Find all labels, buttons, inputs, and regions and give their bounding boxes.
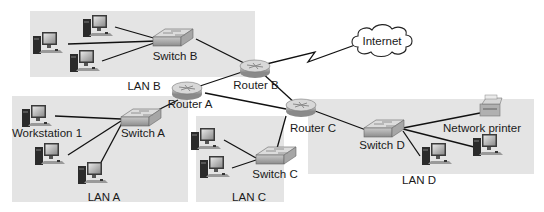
network-printer-icon bbox=[480, 95, 502, 116]
network-printer-label: Network printer bbox=[443, 122, 521, 134]
router-c-label: Router C bbox=[290, 122, 336, 134]
switch-c-label: Switch C bbox=[252, 168, 297, 180]
router-a-label: Router A bbox=[168, 98, 213, 110]
lan-d-label: LAN D bbox=[402, 174, 436, 186]
lan-c-label: LAN C bbox=[232, 191, 266, 203]
router-b-icon bbox=[240, 60, 270, 78]
internet-label: Internet bbox=[363, 35, 403, 47]
lan-b-area bbox=[30, 11, 255, 77]
switch-a-label: Switch A bbox=[121, 127, 165, 139]
network-diagram: Internet Switch B LAN B Router B Router … bbox=[0, 0, 544, 212]
lan-a-label: LAN A bbox=[88, 191, 121, 203]
switch-d-label: Switch D bbox=[359, 139, 404, 151]
router-b-label: Router B bbox=[233, 79, 279, 91]
internet-cloud: Internet bbox=[352, 25, 412, 57]
switch-b-label: Switch B bbox=[153, 50, 198, 62]
lan-b-label: LAN B bbox=[127, 80, 161, 92]
router-c-icon bbox=[286, 99, 316, 117]
link-routera-routerc bbox=[205, 93, 286, 109]
workstation-1-label: Workstation 1 bbox=[12, 127, 82, 139]
